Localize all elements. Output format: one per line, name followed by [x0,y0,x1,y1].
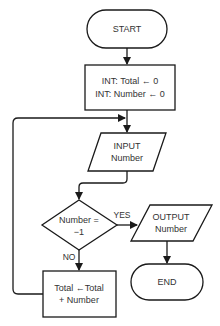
decision-line-2: −1 [74,227,84,237]
flowchart: START INT: Total ← 0 INT: Number ← 0 INP… [0,0,220,326]
accumulate-line-1: Total ←Total [54,283,104,293]
accumulate-line-2: + Number [59,295,99,305]
input-node: INPUT Number [88,133,166,171]
edge-input-decision [79,171,127,199]
init-line-2: INT: Number ← 0 [95,89,165,99]
no-label: NO [63,252,76,262]
input-line-2: Number [111,153,143,163]
end-node: END [131,264,203,300]
output-line-1: OUTPUT [153,212,191,222]
accumulate-node: Total ←Total + Number [43,271,116,317]
end-label: END [157,277,177,287]
init-node: INT: Total ← 0 INT: Number ← 0 [85,65,175,110]
start-label: START [113,24,142,34]
yes-label: YES [113,210,130,220]
input-line-1: INPUT [114,141,142,151]
start-node: START [87,10,167,48]
output-line-2: Number [155,224,187,234]
decision-line-1: Number = [59,215,99,225]
init-line-1: INT: Total ← 0 [102,76,158,86]
decision-node: Number = −1 [42,200,117,250]
output-node: OUTPUT Number [131,205,212,241]
